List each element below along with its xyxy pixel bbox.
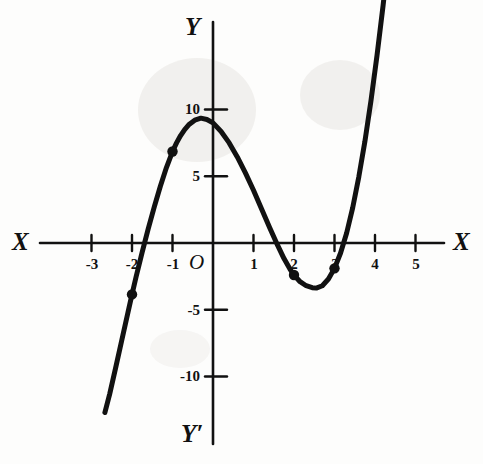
point-at-x-minus-2 [127, 289, 137, 299]
x-tick-label-3: 3 [322, 257, 348, 272]
x-tick-label-4: 4 [362, 257, 388, 272]
x-tick-label-neg1: -1 [156, 257, 190, 272]
x-tick-label-neg3: -3 [75, 257, 109, 272]
y-tick-label-neg10: -10 [144, 369, 200, 384]
y-tick-label-neg5: -5 [148, 303, 200, 318]
origin-label: O [189, 252, 204, 273]
x-tick-label-neg2: -2 [115, 257, 149, 272]
x-tick-label-1: 1 [241, 257, 267, 272]
x-axis-label-left: X [12, 229, 29, 254]
y-tick-label-10: 10 [152, 102, 200, 117]
x-axis-label-right: X [453, 229, 470, 254]
graph-figure: X X Y Y′ O -3 -2 -1 1 2 3 4 5 10 5 -5 -1… [0, 0, 483, 464]
plot-canvas [0, 0, 483, 464]
x-tick-label-5: 5 [403, 257, 429, 272]
y-axis-label-bottom: Y′ [181, 421, 203, 446]
x-tick-label-2: 2 [281, 257, 307, 272]
y-tick-label-5: 5 [152, 169, 200, 184]
y-axis-label-top: Y [185, 14, 200, 39]
cubic-curve [105, 0, 389, 413]
point-at-x-minus-1 [167, 146, 177, 156]
